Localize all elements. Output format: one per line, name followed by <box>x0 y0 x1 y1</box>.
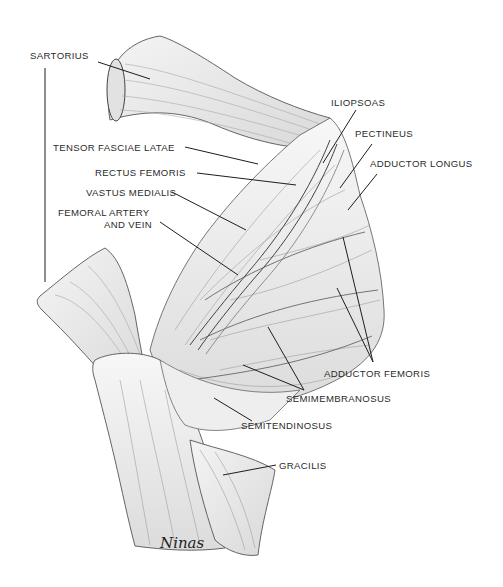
label-rectus-femoris: RECTUS FEMORIS <box>95 167 186 178</box>
label-femoral-artery-line2: AND VEIN <box>104 219 152 230</box>
label-tensor-fasciae-latae: TENSOR FASCIAE LATAE <box>53 142 175 153</box>
label-vastus-medialis: VASTUS MEDIALIS <box>86 187 176 198</box>
label-femoral-artery-line1: FEMORAL ARTERY <box>58 207 150 218</box>
label-adductor-femoris: ADDUCTOR FEMORIS <box>324 368 430 379</box>
label-gracilis: GRACILIS <box>279 460 327 471</box>
label-semitendinosus: SEMITENDINOSUS <box>241 420 332 431</box>
anatomy-diagram: Ninas SARTORIUS TENSOR FASCIAE LATAE REC… <box>0 0 503 587</box>
label-semimembranosus: SEMIMEMBRANOSUS <box>286 393 391 404</box>
sartorius-upper-muscle <box>107 36 330 148</box>
artist-signature: Ninas <box>159 534 205 552</box>
leader-tensor-fasciae-latae <box>185 147 258 164</box>
thigh-muscle-illustration: Ninas <box>0 0 503 587</box>
label-sartorius: SARTORIUS <box>30 50 89 61</box>
label-pectineus: PECTINEUS <box>355 128 413 139</box>
label-iliopsoas: ILIOPSOAS <box>331 97 385 108</box>
label-adductor-longus: ADDUCTOR LONGUS <box>370 158 473 169</box>
